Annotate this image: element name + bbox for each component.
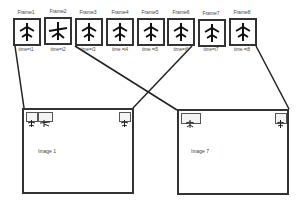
frame-time: time=t2 xyxy=(41,47,75,52)
plane-icon xyxy=(139,20,163,44)
image-7-thumb-frame8 xyxy=(275,113,287,124)
frame-1[interactable] xyxy=(13,18,41,46)
plane-icon xyxy=(200,21,224,45)
frame-time: time=t3 xyxy=(71,47,105,52)
image-7-thumb-frame3 xyxy=(181,113,201,124)
frame-4[interactable] xyxy=(106,18,134,46)
frame-6[interactable] xyxy=(167,18,195,46)
image-label: Image 7 xyxy=(191,148,209,154)
frame-label: Frame2 xyxy=(41,8,75,14)
image-1-thumb-frame1 xyxy=(26,112,38,122)
image-7-box: Image 7 xyxy=(177,109,289,195)
frame-label: Frame4 xyxy=(103,9,137,15)
plane-icon xyxy=(15,20,39,44)
frame-label: Frame5 xyxy=(133,9,167,15)
frame-7[interactable] xyxy=(198,19,226,47)
frame-8[interactable] xyxy=(229,18,257,46)
plane-icon xyxy=(108,20,132,44)
image-1-box: Image 1 xyxy=(22,108,134,194)
plane-icon xyxy=(120,120,129,127)
frame-time: time=t1 xyxy=(9,47,43,52)
frame-time: time=t6 xyxy=(164,47,198,52)
image-1-thumb-frame2 xyxy=(38,112,53,122)
frame-time: time=t7 xyxy=(194,47,228,52)
plane-icon xyxy=(77,20,101,44)
image-1-thumb-frame6 xyxy=(119,112,131,122)
frame-2[interactable] xyxy=(44,17,72,45)
frame-label: Frame6 xyxy=(164,9,198,15)
plane-icon xyxy=(276,120,285,128)
plane-icon xyxy=(27,120,36,127)
frame-label: Frame1 xyxy=(9,9,43,15)
plane-icon xyxy=(39,120,51,127)
frame-label: Frame7 xyxy=(194,10,228,16)
frame-3[interactable] xyxy=(75,18,103,46)
plane-icon xyxy=(182,120,199,128)
frame-label: Frame3 xyxy=(71,9,105,15)
frame-label: Frame8 xyxy=(225,9,259,15)
plane-icon xyxy=(231,20,255,44)
frame-time: time =t5 xyxy=(133,47,167,52)
frame-5[interactable] xyxy=(137,18,165,46)
plane-icon xyxy=(169,20,193,44)
frame-time: time =t4 xyxy=(103,47,137,52)
frame-time: time =t8 xyxy=(225,47,259,52)
plane-icon xyxy=(46,19,70,43)
image-label: Image 1 xyxy=(38,148,56,154)
